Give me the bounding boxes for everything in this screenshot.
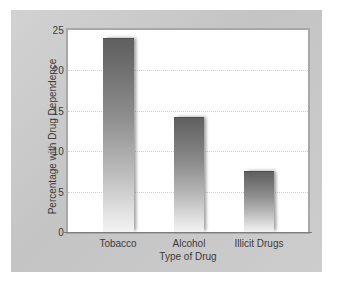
bar-top-edge <box>244 171 274 172</box>
plot-area <box>68 30 308 232</box>
x-tick-illicit-drugs: Illicit Drugs <box>235 238 284 249</box>
x-axis-title: Type of Drug <box>68 251 308 262</box>
x-axis-line <box>64 232 312 233</box>
y-axis-title: Percentage with Drug Dependence <box>47 36 58 238</box>
bar-alcohol[interactable] <box>174 117 204 232</box>
bar-tobacco[interactable] <box>103 38 134 232</box>
bar-top-edge <box>174 117 204 118</box>
bar-illicit-drugs[interactable] <box>244 171 274 232</box>
x-tick-alcohol: Alcohol <box>173 238 206 249</box>
bar-top-edge <box>103 38 134 39</box>
y-tick-25: 25 <box>30 25 64 36</box>
x-tick-tobacco: Tobacco <box>99 238 136 249</box>
figure: 25 20 15 10 5 0 Tobacco <box>0 0 341 290</box>
y-axis-ticks: 25 20 15 10 5 0 <box>24 30 64 232</box>
chart-frame: 25 20 15 10 5 0 Tobacco <box>11 10 322 272</box>
